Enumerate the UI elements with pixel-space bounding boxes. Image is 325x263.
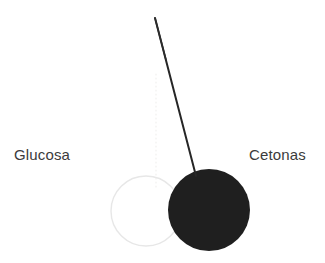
- cetonas-circle: [168, 169, 250, 251]
- pointer-needle-tip: [155, 18, 166, 60]
- diagram-graphic: [0, 0, 325, 263]
- figure-canvas: Glucosa Cetonas: [0, 0, 325, 263]
- glucosa-label: Glucosa: [14, 147, 70, 162]
- cetonas-label: Cetonas: [249, 147, 306, 162]
